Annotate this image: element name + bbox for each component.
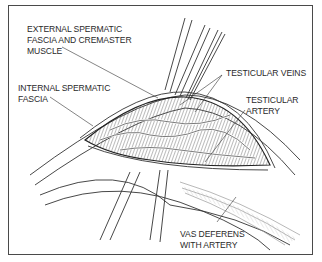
label-internal-spermatic-fascia: INTERNAL SPERMATIC FASCIA bbox=[18, 83, 110, 105]
label-testicular-veins: TESTICULAR VEINS bbox=[226, 68, 306, 79]
incision-opening bbox=[85, 97, 270, 166]
label-testicular-artery: TESTICULAR ARTERY bbox=[246, 95, 298, 117]
label-vas-deferens: VAS DEFERENS WITH ARTERY bbox=[180, 229, 245, 251]
label-external-spermatic-fascia: EXTERNAL SPERMATIC FASCIA AND CREMASTER … bbox=[27, 24, 132, 57]
